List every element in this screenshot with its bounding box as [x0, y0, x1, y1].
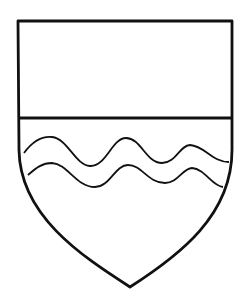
shield-figure: [0, 0, 247, 301]
shield-svg: [0, 0, 247, 301]
shield-outline: [18, 21, 232, 287]
